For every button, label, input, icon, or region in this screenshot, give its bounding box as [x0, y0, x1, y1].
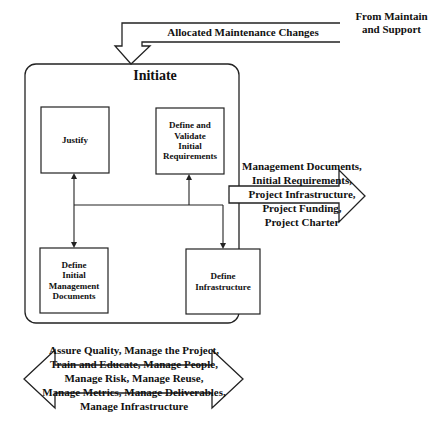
define-infra-box: Define Infrastructure	[186, 249, 260, 314]
output-line: Project Funding,	[232, 201, 372, 215]
define-mgmt-docs-box: Define Initial Management Documents	[40, 248, 108, 313]
output-line: Project Charter	[232, 215, 372, 229]
define-mgmt-docs-line: Documents	[53, 291, 96, 301]
define-validate-box: Define and Validate Initial Requirements	[156, 108, 224, 174]
input-source-line2: and Support	[342, 23, 441, 36]
define-validate-line: Initial	[178, 141, 202, 151]
output-line: Management Documents,	[232, 159, 372, 173]
support-line: Manage Risk, Manage Reuse,	[20, 371, 248, 385]
connector-lines	[74, 178, 223, 244]
arrowheads	[71, 173, 226, 249]
support-line: Manage Infrastructure	[20, 399, 248, 413]
initiate-title: Initiate	[100, 68, 210, 84]
support-arrow-label: Assure Quality, Manage the Project, Trai…	[20, 343, 248, 413]
justify-box: Justify	[41, 107, 109, 173]
input-source-line1: From Maintain	[342, 10, 441, 23]
define-validate-line: Requirements	[163, 151, 217, 161]
define-mgmt-docs-line: Management	[49, 281, 100, 291]
output-arrow-label: Management Documents, Initial Requiremen…	[232, 159, 372, 229]
define-mgmt-docs-line: Initial	[62, 270, 86, 280]
output-line: Initial Requirements,	[232, 173, 372, 187]
define-infra-line: Infrastructure	[195, 282, 250, 292]
support-line: Assure Quality, Manage the Project,	[20, 343, 248, 357]
define-infra-line: Define	[211, 271, 236, 281]
define-validate-line: Validate	[174, 131, 206, 141]
support-line: Train and Educate, Manage People,	[20, 357, 248, 371]
justify-label: Justify	[62, 135, 88, 145]
define-mgmt-docs-line: Define	[62, 260, 87, 270]
support-line: Manage Metrics, Manage Deliverables,	[20, 385, 248, 399]
input-arrow-label: Allocated Maintenance Changes	[148, 26, 338, 39]
output-line: Project Infrastructure,	[232, 187, 372, 201]
define-validate-line: Define and	[169, 120, 211, 130]
input-source-label: From Maintain and Support	[342, 10, 441, 35]
